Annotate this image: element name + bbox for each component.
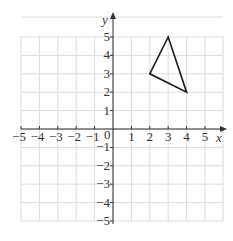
y-tick-label: −3 <box>96 176 110 191</box>
y-tick-label: 3 <box>104 66 111 81</box>
x-axis-label: x <box>215 130 222 145</box>
x-tick-label: 3 <box>165 129 172 144</box>
x-tick-label: −5 <box>12 129 26 144</box>
x-tick-label: −3 <box>49 129 63 144</box>
grid-lines <box>21 17 223 221</box>
y-tick-label: −2 <box>96 158 110 173</box>
y-tick-label: 5 <box>104 29 111 44</box>
coordinate-plane: x y 0 −5−4−3−2−11234554321−1−2−3−4−5 <box>0 0 233 241</box>
x-tick-label: 5 <box>202 129 209 144</box>
y-tick-label: −1 <box>96 139 110 154</box>
x-tick-label: 4 <box>183 129 190 144</box>
y-tick-label: 4 <box>104 47 111 62</box>
y-axis-label: y <box>100 12 108 27</box>
y-tick-label: 1 <box>104 103 111 118</box>
y-axis-arrow-icon <box>110 12 116 19</box>
y-tick-label: −4 <box>96 195 110 210</box>
x-tick-label: −2 <box>67 129 81 144</box>
y-tick-label: 2 <box>104 84 111 99</box>
x-tick-label: 1 <box>128 129 135 144</box>
x-tick-label: 2 <box>147 129 154 144</box>
axes: x y 0 <box>21 12 227 224</box>
x-tick-label: −4 <box>30 129 44 144</box>
y-tick-label: −5 <box>96 213 110 228</box>
